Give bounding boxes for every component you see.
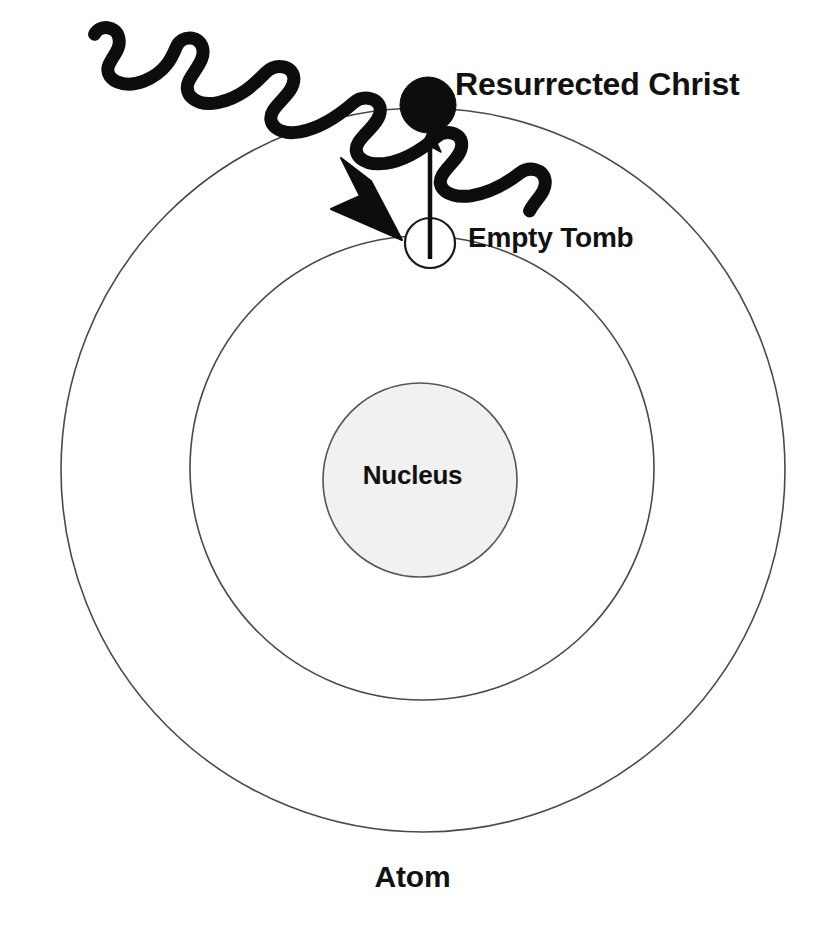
resurrected-christ-label: Resurrected Christ [455,68,740,100]
incoming-energy-wave-icon [92,27,548,211]
atom-diagram: Resurrected Christ Empty Tomb Nucleus At… [0,0,825,937]
resurrected-christ-particle [400,77,456,133]
empty-tomb-label: Empty Tomb [468,224,633,252]
wave-arrowhead-icon [331,158,402,240]
nucleus-label: Nucleus [0,462,825,488]
atom-label: Atom [0,862,825,892]
